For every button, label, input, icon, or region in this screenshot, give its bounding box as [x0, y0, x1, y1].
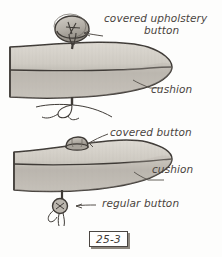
label-covered-upholstery-button: covered upholstery button [104, 13, 207, 37]
upper-cushion-group [10, 42, 172, 98]
label-covered-upholstery-button-line1: covered upholstery [104, 12, 207, 24]
label-covered-upholstery-button-line2: button [104, 25, 207, 37]
upper-thread-tail-right [73, 105, 112, 117]
figure-25-3: covered upholstery button cushion covere… [0, 0, 222, 257]
small-covered-button-base [66, 144, 88, 150]
upper-thread-group [36, 97, 112, 120]
regular-button-tail-right [63, 213, 64, 226]
label-covered-button: covered button [110, 127, 192, 139]
upper-thread-tail-loop [42, 114, 58, 118]
label-cushion-upper: cushion [151, 84, 192, 96]
figure-number-badge: 25-3 [89, 231, 128, 247]
upper-thread-knot [58, 105, 72, 118]
label-cushion-lower: cushion [152, 164, 193, 176]
regular-button-tail-mid [58, 214, 59, 226]
label-regular-button: regular button [102, 198, 179, 210]
regular-button-group [48, 190, 67, 226]
small-covered-button-group [66, 137, 88, 150]
arrow-regular-button [76, 204, 96, 208]
lower-cushion-group [14, 140, 172, 191]
upper-thread-tail-down [68, 116, 79, 120]
